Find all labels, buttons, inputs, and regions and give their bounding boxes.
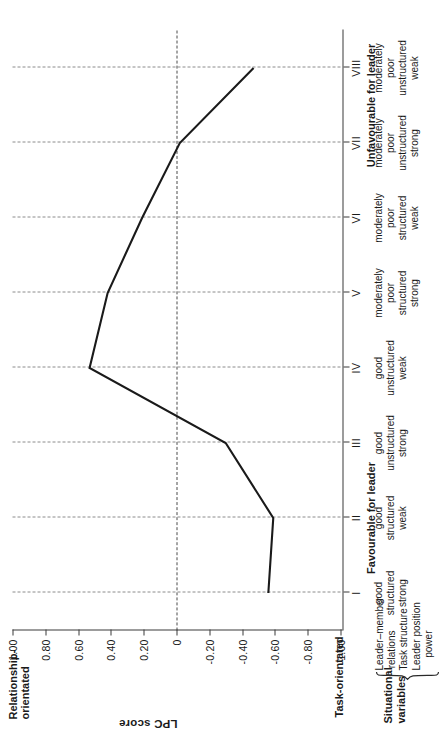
cell-leader-position-power-VIII: weak: [408, 30, 420, 105]
value-tick-label-3: 0.40: [104, 639, 116, 660]
cell-leader-position-power-VII: strong: [408, 105, 420, 180]
cell-leader-member-relations-III: good: [372, 405, 384, 480]
cell-task-structure-II: structured: [384, 480, 396, 555]
situational-variables-legend: Situational variables Leader–member rela…: [373, 628, 443, 723]
value-tick-label-8: -0.60: [268, 639, 280, 664]
cell-leader-member-relations-VIII: moderatelypoor: [372, 30, 396, 105]
situational-variables-title-line2: variables: [394, 675, 406, 723]
category-tick-IV: [343, 367, 349, 368]
sitvar-row-power-line2: power: [422, 630, 433, 657]
lpc-series-line: [12, 30, 340, 630]
value-tick-label-4: 0.20: [137, 639, 149, 660]
value-tick-label-5: 0: [170, 639, 182, 645]
sitvar-row-task-structure: Task structure: [397, 630, 409, 670]
category-column-II: IIgoodstructuredweak: [349, 480, 408, 555]
cell-leader-position-power-II: weak: [396, 480, 408, 555]
value-tick-label-0: 1.00: [6, 639, 18, 660]
cell-task-structure-V: structured: [396, 255, 408, 330]
value-tick-label-9: -0.80: [301, 639, 313, 664]
cell-task-structure-IV: unstructured: [384, 330, 396, 405]
category-tick-V: [343, 292, 349, 293]
category-roman-VI: VI: [349, 180, 361, 255]
value-tick-label-2: 0.60: [72, 639, 84, 660]
plot-wrap: [12, 30, 342, 630]
category-tick-I: [343, 592, 349, 593]
curly-brace-icon: [375, 671, 439, 680]
category-column-V: Vmoderatelypoorstructuredstrong: [349, 255, 420, 330]
category-column-IV: IVgoodunstructuredweak: [349, 330, 408, 405]
category-column-VI: VImoderatelypoorstructuredweak: [349, 180, 420, 255]
value-tick-label-10: -1.00: [334, 639, 346, 664]
cell-leader-member-relations-II: good: [372, 480, 384, 555]
plot-area: [12, 30, 340, 630]
category-tick-VI: [343, 217, 349, 218]
category-tick-III: [343, 442, 349, 443]
sitvar-row-power-line1: Leader position: [410, 602, 421, 670]
relationship-orientated-line2: orientated: [18, 666, 30, 719]
sitvar-row-relations-line1: Leader–member: [373, 597, 384, 670]
category-column-III: IIIgoodunstructuredstrong: [349, 405, 408, 480]
category-roman-III: III: [349, 405, 361, 480]
sitvar-row-relations-line2: relations: [385, 630, 396, 668]
situational-variables-title: Situational variables: [381, 681, 406, 723]
cell-leader-member-relations-V: moderatelypoor: [372, 255, 396, 330]
cell-leader-member-relations-IV: good: [372, 330, 384, 405]
category-roman-VII: VII: [349, 105, 361, 180]
category-column-VII: VIImoderatelypoorunstructuredstrong: [349, 105, 420, 180]
situational-variables-items: Leader–member relations Task structure L…: [373, 630, 434, 670]
cell-task-structure-VII: unstructured: [396, 105, 408, 180]
value-tick-label-7: -0.40: [236, 639, 248, 664]
cell-task-structure-VI: structured: [396, 180, 408, 255]
category-roman-II: II: [349, 480, 361, 555]
category-roman-V: V: [349, 255, 361, 330]
cell-leader-member-relations-VI: moderatelypoor: [372, 180, 396, 255]
sitvar-row-relations: Leader–member relations: [373, 630, 397, 670]
cell-leader-position-power-IV: weak: [396, 330, 408, 405]
cell-task-structure-III: unstructured: [384, 405, 396, 480]
cell-task-structure-I: structured: [384, 555, 396, 630]
value-axis-title: LPC score: [118, 717, 177, 729]
cell-leader-member-relations-VII: moderatelypoor: [372, 105, 396, 180]
category-tick-VIII: [343, 67, 349, 68]
cell-leader-position-power-VI: weak: [408, 180, 420, 255]
value-tick-label-1: 0.80: [39, 639, 51, 660]
sitvar-row-leader-position-power: Leader position power: [410, 630, 434, 670]
cell-leader-position-power-V: strong: [408, 255, 420, 330]
cell-task-structure-VIII: unstructured: [396, 30, 408, 105]
category-attribute-table: IgoodstructuredstrongIIgoodstructuredwea…: [349, 29, 441, 630]
category-tick-II: [343, 517, 349, 518]
cell-leader-position-power-III: strong: [396, 405, 408, 480]
category-tick-VII: [343, 142, 349, 143]
category-column-VIII: VIIImoderatelypoorunstructuredweak: [349, 30, 420, 105]
category-roman-VIII: VIII: [349, 30, 361, 105]
category-roman-IV: IV: [349, 330, 361, 405]
value-tick-label-6: -0.20: [203, 639, 215, 664]
category-roman-I: I: [349, 555, 361, 630]
